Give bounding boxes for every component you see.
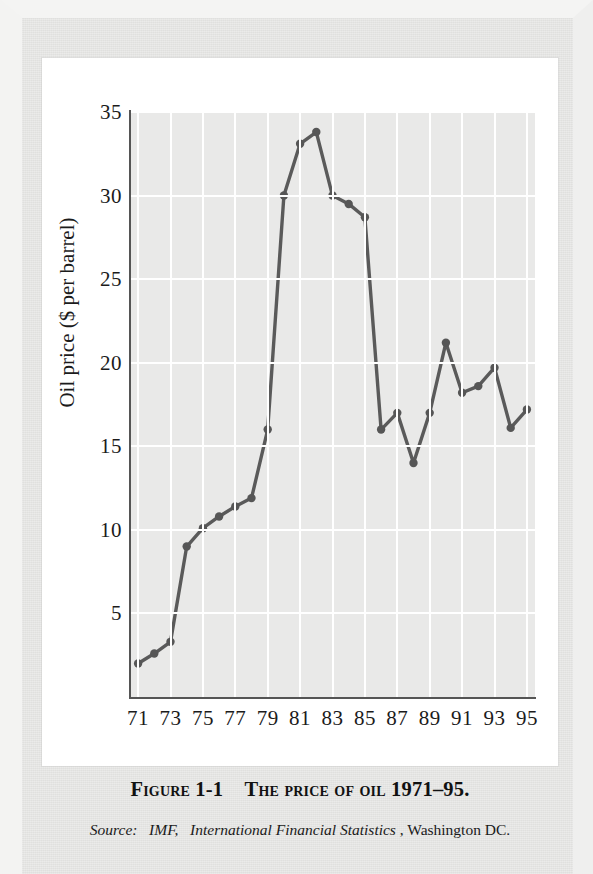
x-axis-line xyxy=(129,697,536,699)
source-publisher: IMF, xyxy=(149,821,178,838)
y-axis-tick-label: 10 xyxy=(2,517,122,542)
data-point xyxy=(215,512,223,520)
figure-caption: Figure 1-1 The price of oil 1971–95. xyxy=(42,778,558,801)
gridline-vertical xyxy=(170,112,172,697)
oil-price-chart: 5101520253035 Oil price ($ per barrel) 7… xyxy=(0,0,593,766)
gridline-vertical xyxy=(461,112,463,697)
figure-caption-block: Figure 1-1 The price of oil 1971–95. Sou… xyxy=(42,778,558,839)
figure-title: The price of oil 1971–95. xyxy=(245,778,470,800)
source-label: Source: xyxy=(90,821,138,838)
figure-number: Figure 1-1 xyxy=(130,778,223,800)
data-point xyxy=(442,338,450,346)
gridline-vertical xyxy=(234,112,236,697)
x-axis-tick-label: 95 xyxy=(497,706,557,731)
gridline-vertical xyxy=(494,112,496,697)
y-axis-tick-label: 5 xyxy=(2,601,122,626)
figure-source: Source: IMF, International Financial Sta… xyxy=(42,821,558,839)
gridline-vertical xyxy=(137,112,139,697)
gridline-vertical xyxy=(526,112,528,697)
y-axis-tick-label: 35 xyxy=(2,100,122,125)
data-point xyxy=(377,425,385,433)
y-axis-line xyxy=(129,110,131,699)
y-axis-title: Oil price ($ per barrel) xyxy=(55,148,80,478)
figure-page: 5101520253035 Oil price ($ per barrel) 7… xyxy=(0,0,593,874)
gridline-vertical xyxy=(396,112,398,697)
data-point xyxy=(409,459,417,467)
data-point xyxy=(507,424,515,432)
source-publication: International Financial Statistics xyxy=(190,821,396,838)
plot-area xyxy=(130,112,535,697)
gridline-vertical xyxy=(429,112,431,697)
data-point xyxy=(345,200,353,208)
data-point xyxy=(247,494,255,502)
gridline-vertical xyxy=(364,112,366,697)
data-point xyxy=(150,649,158,657)
source-location: , Washington DC. xyxy=(400,821,510,838)
gridline-vertical xyxy=(202,112,204,697)
gridline-vertical xyxy=(332,112,334,697)
data-point xyxy=(474,382,482,390)
gridline-vertical xyxy=(267,112,269,697)
data-point xyxy=(183,542,191,550)
data-point xyxy=(312,128,320,136)
gridline-vertical xyxy=(299,112,301,697)
